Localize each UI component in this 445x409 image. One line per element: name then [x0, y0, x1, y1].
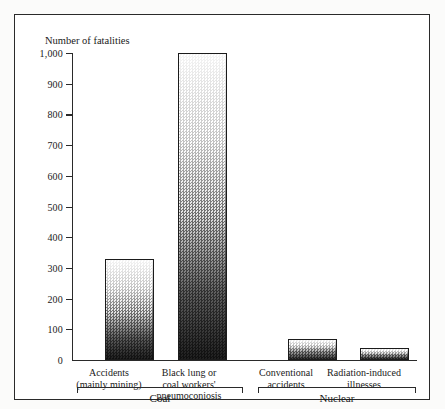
- bar-accidents-mainly-mining[interactable]: [105, 259, 154, 360]
- y-tick-label-100: 100: [47, 324, 63, 335]
- group-label-nuclear: Nuclear: [258, 392, 416, 404]
- y-tick-label-200: 200: [47, 293, 63, 304]
- bar-black-lung-pneumoconiosis[interactable]: [178, 53, 227, 360]
- x-label-black-lung-line1: Black lung or: [137, 367, 241, 379]
- chart-page: Number of fatalities 1,000 900 800 700 6…: [0, 0, 445, 409]
- bar-radiation-induced-illnesses[interactable]: [360, 348, 409, 360]
- y-tick-label-400: 400: [47, 232, 63, 243]
- y-tick-label-700: 700: [47, 140, 63, 151]
- y-tick-label-300: 300: [47, 262, 63, 273]
- y-tick-label-600: 600: [47, 170, 63, 181]
- y-tick-label-0: 0: [58, 355, 63, 366]
- figure-frame: Number of fatalities 1,000 900 800 700 6…: [14, 14, 430, 400]
- x-label-radiation-line1: Radiation-induced: [309, 367, 419, 379]
- y-tick-label-1000: 1,000: [40, 48, 64, 59]
- group-label-coal: Coal: [77, 392, 243, 404]
- plot-area: [72, 53, 416, 360]
- bar-conventional-accidents[interactable]: [288, 339, 337, 360]
- y-tick-label-group: 1,000 900 800 700 600 500 400 300 200 10…: [15, 15, 63, 409]
- y-tick-label-900: 900: [47, 78, 63, 89]
- y-tick-label-500: 500: [47, 201, 63, 212]
- y-tick-label-800: 800: [47, 109, 63, 120]
- x-axis-line: [72, 360, 417, 361]
